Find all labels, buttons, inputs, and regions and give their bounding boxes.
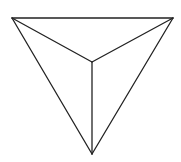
edge-top_right-bottom (92, 18, 173, 154)
edge-top_left-apex (12, 18, 92, 62)
pyramid-diagram (0, 0, 181, 162)
pyramid-edges (12, 18, 173, 154)
edge-top_right-apex (92, 18, 173, 62)
edge-bottom-top_left (12, 18, 92, 154)
pyramid-svg (0, 0, 181, 162)
